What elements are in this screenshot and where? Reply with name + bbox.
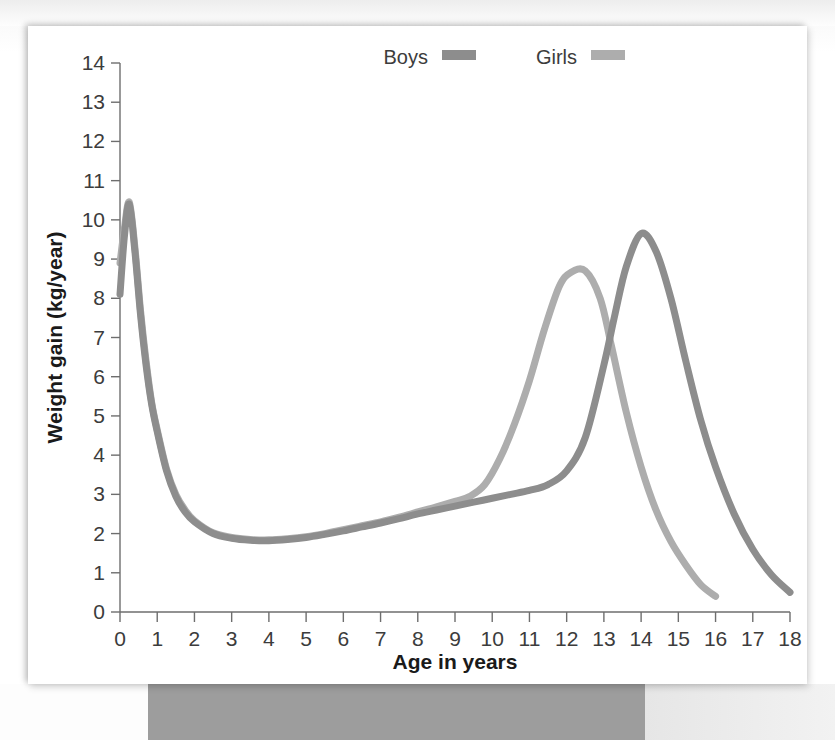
- chart-legend: BoysGirls: [384, 46, 625, 68]
- y-tick-label-0: 0: [93, 600, 105, 623]
- legend-swatch-girls: [591, 50, 625, 60]
- x-tick-label-12: 12: [555, 627, 578, 650]
- series-lines: [120, 202, 790, 596]
- growth-velocity-chart: BoysGirls 01234567891011121314 012345678…: [28, 26, 807, 684]
- y-tick-label-14: 14: [82, 51, 106, 74]
- x-tick-label-15: 15: [667, 627, 690, 650]
- x-tick-label-18: 18: [778, 627, 801, 650]
- y-tick-label-4: 4: [93, 443, 105, 466]
- x-tick-label-9: 9: [449, 627, 461, 650]
- legend-label-girls: Girls: [536, 46, 577, 68]
- legend-label-boys: Boys: [384, 46, 428, 68]
- y-tick-label-6: 6: [93, 365, 105, 388]
- x-tick-label-10: 10: [481, 627, 504, 650]
- x-tick-label-16: 16: [704, 627, 727, 650]
- y-tick-label-3: 3: [93, 482, 105, 505]
- backdrop-bottom-right: [645, 684, 835, 740]
- x-tick-label-1: 1: [151, 627, 163, 650]
- x-axis: 0123456789101112131415161718: [114, 612, 802, 650]
- y-axis-title: Weight gain (kg/year): [43, 232, 66, 444]
- x-tick-label-5: 5: [300, 627, 312, 650]
- x-tick-label-3: 3: [226, 627, 238, 650]
- x-tick-label-14: 14: [629, 627, 653, 650]
- y-axis: 01234567891011121314: [82, 51, 120, 623]
- backdrop-bottom-band: [148, 684, 645, 740]
- x-tick-label-13: 13: [592, 627, 615, 650]
- x-axis-title: Age in years: [393, 650, 518, 673]
- x-tick-label-6: 6: [337, 627, 349, 650]
- x-tick-label-0: 0: [114, 627, 126, 650]
- x-tick-label-4: 4: [263, 627, 275, 650]
- x-tick-label-11: 11: [519, 627, 541, 650]
- x-tick-label-7: 7: [375, 627, 387, 650]
- backdrop-top-band: [0, 0, 835, 26]
- y-tick-label-1: 1: [93, 561, 105, 584]
- x-tick-label-2: 2: [189, 627, 201, 650]
- y-tick-label-5: 5: [93, 404, 105, 427]
- x-tick-label-8: 8: [412, 627, 424, 650]
- y-tick-label-12: 12: [82, 129, 105, 152]
- y-tick-label-10: 10: [82, 208, 105, 231]
- y-tick-label-13: 13: [82, 90, 105, 113]
- y-tick-label-9: 9: [93, 247, 105, 270]
- series-line-boys: [120, 204, 790, 592]
- y-tick-label-2: 2: [93, 522, 105, 545]
- y-tick-label-8: 8: [93, 286, 105, 309]
- backdrop-bottom-left: [0, 684, 148, 740]
- x-tick-label-17: 17: [741, 627, 764, 650]
- y-tick-label-11: 11: [83, 169, 105, 192]
- figure-card: BoysGirls 01234567891011121314 012345678…: [28, 26, 807, 684]
- y-tick-label-7: 7: [93, 326, 105, 349]
- legend-swatch-boys: [442, 50, 476, 60]
